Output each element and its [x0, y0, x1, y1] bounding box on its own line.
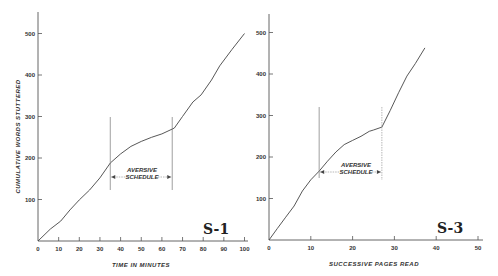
left-x-tick-label: 20: [76, 246, 83, 252]
right-y-tick-label: 400: [256, 71, 267, 77]
right-arrow-left-icon: [320, 170, 324, 174]
left-x-tick-label: 30: [97, 246, 104, 252]
left-data-line: [38, 34, 245, 242]
figure: 1002003004005000102030405060708090100TIM…: [0, 0, 498, 276]
left-x-axis-title: TIME IN MINUTES: [112, 262, 170, 268]
left-x-tick-label: 50: [138, 246, 145, 252]
right-annotation-line1: AVERSIVE: [340, 162, 372, 168]
right-x-tick-label: 40: [433, 245, 440, 251]
left-annotation-line1: AVERSIVE: [126, 167, 158, 173]
left-y-tick-label: 200: [25, 155, 36, 161]
right-y-tick-label: 200: [256, 154, 267, 160]
right-x-tick-label: 0: [267, 245, 271, 251]
left-x-tick-label: 90: [221, 246, 228, 252]
right-x-tick-label: 50: [475, 245, 482, 251]
left-arrow-left-icon: [111, 175, 115, 179]
left-arrow-right-icon: [167, 175, 171, 179]
right-y-tick-label: 100: [256, 196, 267, 202]
y-axis-title: CUMULATIVE WORDS STUTTERED: [15, 79, 21, 193]
right-arrow-right-icon: [377, 170, 381, 174]
left-x-tick-label: 60: [159, 246, 166, 252]
left-x-tick-label: 0: [36, 246, 40, 252]
right-x-tick-label: 20: [349, 245, 356, 251]
right-y-tick-label: 500: [256, 30, 267, 36]
left-y-tick-label: 100: [25, 197, 36, 203]
right-annotation-line2: SCHEDULE: [339, 169, 373, 175]
left-x-tick-label: 80: [200, 246, 207, 252]
left-y-tick-label: 400: [25, 72, 36, 78]
right-data-line: [269, 48, 425, 240]
left-x-tick-label: 70: [179, 246, 186, 252]
right-panel-label: S-3: [437, 220, 463, 236]
left-y-tick-label: 300: [25, 114, 36, 120]
left-annotation-line2: SCHEDULE: [125, 174, 159, 180]
left-x-tick-label: 10: [55, 246, 62, 252]
left-y-tick-label: 500: [25, 31, 36, 37]
left-panel-label: S-1: [203, 221, 229, 237]
right-x-axis-title: SUCCESSIVE PAGES READ: [329, 261, 419, 267]
right-y-tick-label: 300: [256, 113, 267, 119]
right-x-tick-label: 10: [307, 245, 314, 251]
left-axes: [38, 12, 248, 241]
left-x-tick-label: 100: [239, 246, 250, 252]
left-x-tick-label: 40: [117, 246, 124, 252]
right-x-tick-label: 30: [391, 245, 398, 251]
right-axes: [269, 14, 483, 240]
